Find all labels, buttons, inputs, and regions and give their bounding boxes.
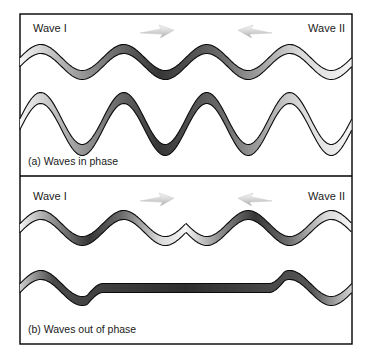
panel-b-left-label: Wave I: [33, 190, 67, 202]
wave-interference-figure: Wave I Wave II (a) Waves in phase Wave I…: [0, 0, 375, 357]
panel-a-caption: (a) Waves in phase: [28, 155, 118, 167]
panel-a-left-label: Wave I: [33, 22, 67, 34]
panel-a-right-label: Wave II: [308, 22, 345, 34]
panel-b-right-label: Wave II: [308, 190, 345, 202]
panel-b-caption: (b) Waves out of phase: [28, 323, 136, 335]
